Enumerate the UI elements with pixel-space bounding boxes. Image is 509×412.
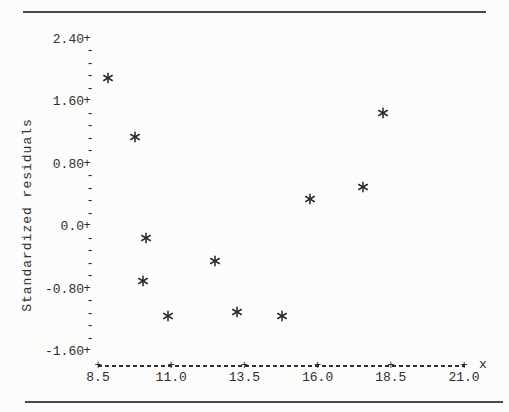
y-tick-label: 2.40 [40, 33, 84, 46]
y-tick-mark: + [83, 158, 90, 170]
y-minor-tick-mark: - [86, 58, 93, 70]
y-tick-mark: + [83, 220, 90, 232]
data-point-asterisk-marker [277, 310, 288, 321]
y-tick-label: -1.60 [40, 345, 84, 358]
y-minor-tick-mark: - [86, 183, 93, 195]
y-minor-tick-mark: - [86, 333, 93, 345]
x-tick-label: 18.5 [375, 371, 406, 384]
data-point-asterisk-marker [232, 307, 243, 318]
data-point-asterisk-marker [103, 73, 114, 84]
y-minor-tick-mark: - [86, 145, 93, 157]
y-minor-tick-mark: - [86, 133, 93, 145]
data-point-asterisk-marker [138, 275, 149, 286]
data-point-asterisk-marker [305, 193, 316, 204]
x-tick-label: 21.0 [448, 371, 479, 384]
residual-scatter-plot-figure: Standardized residuals 2.40+----1.60+---… [0, 0, 509, 412]
y-tick-label: 1.60 [40, 95, 84, 108]
data-point-asterisk-marker [210, 256, 221, 267]
y-tick-mark: + [83, 345, 90, 357]
y-minor-tick-mark: - [86, 295, 93, 307]
x-axis-title-text: x [479, 357, 487, 372]
y-minor-tick-mark: - [86, 120, 93, 132]
y-tick-mark: + [83, 283, 90, 295]
x-tick-label: 16.0 [302, 371, 333, 384]
y-minor-tick-mark: - [86, 245, 93, 257]
data-point-asterisk-marker [129, 131, 140, 142]
bottom-rule-line [25, 401, 503, 403]
y-minor-tick-mark: - [86, 320, 93, 332]
y-minor-tick-mark: - [86, 108, 93, 120]
top-rule-line [23, 11, 486, 13]
y-tick-label: -0.80 [40, 282, 84, 295]
y-minor-tick-mark: - [86, 170, 93, 182]
y-minor-tick-mark: - [86, 45, 93, 57]
y-minor-tick-mark: - [86, 83, 93, 95]
x-tick-label: 8.5 [86, 371, 109, 384]
y-tick-mark: + [83, 33, 90, 45]
data-point-asterisk-marker [141, 232, 152, 243]
x-tick-label: 11.0 [156, 371, 187, 384]
y-minor-tick-mark: - [86, 208, 93, 220]
data-point-asterisk-marker [378, 108, 389, 119]
y-axis-title: Standardized residuals [20, 118, 35, 312]
y-minor-tick-mark: - [86, 270, 93, 282]
y-tick-label: 0.80 [40, 157, 84, 170]
y-axis-title-text: Standardized residuals [20, 118, 35, 312]
y-minor-tick-mark: - [86, 258, 93, 270]
x-tick-label: 13.5 [229, 371, 260, 384]
y-minor-tick-mark: - [86, 308, 93, 320]
data-point-asterisk-marker [357, 182, 368, 193]
y-minor-tick-mark: - [86, 70, 93, 82]
data-point-asterisk-marker [163, 310, 174, 321]
x-axis-title: x [479, 357, 487, 372]
y-tick-label: 0.0 [40, 220, 84, 233]
y-tick-mark: + [83, 95, 90, 107]
x-axis-line [98, 365, 465, 367]
y-minor-tick-mark: - [86, 195, 93, 207]
y-minor-tick-mark: - [86, 233, 93, 245]
